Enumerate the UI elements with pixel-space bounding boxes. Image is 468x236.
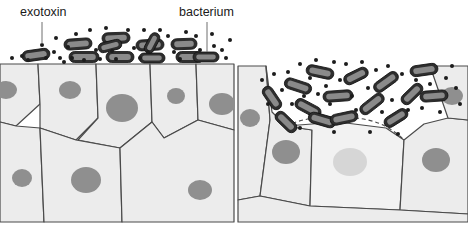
epithelial-cell [196,64,235,130]
exotoxin-particle [194,34,198,38]
nucleus [272,140,300,164]
exotoxin-particle [400,72,404,76]
bacterium-rod [193,52,219,62]
exotoxin-particle [396,132,400,136]
exotoxin-particle [172,50,176,54]
exotoxin-particle [450,64,454,68]
exotoxin-particle [316,92,320,96]
bacterium-inner-highlight [109,54,131,60]
exotoxin-particle [10,56,14,60]
right-panel [238,58,468,222]
bacterium-rod [323,89,354,102]
nucleus [422,148,450,172]
left-panel-cell-layer [0,64,235,222]
bacterium-rod [371,69,400,94]
bacterium-rod [382,106,410,129]
left-panel [0,26,235,222]
exotoxin-particle [198,48,202,52]
exotoxin-particle [104,26,108,30]
exotoxin-particle [444,76,448,80]
exotoxin-particle [266,102,270,106]
exotoxin-particle [354,108,358,112]
exotoxin-particle [428,82,432,86]
exotoxin-particle [338,78,342,82]
nucleus-damaged [333,148,367,176]
exotoxin-particle [62,60,66,64]
left-panel-bacteria [21,31,219,63]
figure-canvas: exotoxin bacterium [0,0,468,236]
exotoxin-particle [406,108,410,112]
nucleus [188,180,212,200]
exotoxin-particle [350,94,354,98]
exotoxin-particle [178,57,182,61]
exotoxin-particle [44,56,48,60]
exotoxin-particle [390,98,394,102]
bacterium-inner-highlight [196,55,216,60]
exotoxin-particle [82,58,86,62]
exotoxin-particle [20,54,24,58]
exotoxin-particle [366,86,370,90]
exotoxin-particle [260,78,264,82]
exotoxin-particle [110,49,114,53]
exotoxin-particle [298,62,302,66]
exotoxin-particle [98,57,102,61]
exotoxin-particle [302,94,306,98]
exotoxin-particle [386,64,390,68]
exotoxin-particle [26,58,30,62]
exotoxin-particle [142,28,146,32]
exotoxin-particle [94,48,98,52]
exotoxin-particle [166,34,170,38]
nucleus [106,94,138,122]
exotoxin-particle [228,38,232,42]
bacterium-rod [342,65,370,86]
bacterium-rod [21,48,50,63]
exotoxin-particle [52,50,56,54]
nucleus [12,169,32,187]
exotoxin-particle [58,56,62,60]
exotoxin-particle [374,68,378,72]
epithelial-cell [400,118,468,214]
nucleus [209,93,235,115]
exotoxin-particle [458,102,462,106]
exotoxin-particle [272,72,276,76]
exotoxin-particle [368,130,372,134]
bacterium-rod [420,90,449,103]
epithelial-cell [0,122,44,222]
bacterium-rod [106,52,134,63]
epithelium-exotoxin-diagram: exotoxin bacterium [0,0,468,236]
exotoxin-particle [380,110,384,114]
exotoxin-particle [344,62,348,66]
exotoxin-particle [414,78,418,82]
exotoxin-particle [74,32,78,36]
nucleus [167,88,185,104]
exotoxin-particle [70,56,74,60]
exotoxin-particle [290,102,294,106]
exotoxin-particle [438,110,442,114]
nucleus [240,109,260,127]
bacterium-label: bacterium [179,5,234,19]
bacterium-rod [139,53,165,63]
bacterium-rod [171,38,197,50]
nucleus [59,81,81,99]
exotoxin-particle [454,86,458,90]
exotoxin-particle [184,30,188,34]
exotoxin-particle [332,60,336,64]
exotoxin-particle [66,45,70,49]
exotoxin-particle [138,56,142,60]
exotoxin-particle [332,130,336,134]
exotoxin-particle [88,28,92,32]
exotoxin-particle [54,36,58,40]
exotoxin-particle [158,28,162,32]
exotoxin-particle [328,102,332,106]
exotoxin-particle [360,60,364,64]
exotoxin-particle [308,76,312,80]
exotoxin-particle [224,56,228,60]
exotoxin-particle [298,126,302,130]
exotoxin-particle [114,57,118,61]
exotoxin-particle [146,50,150,54]
epithelial-cell [0,64,40,126]
exotoxin-label: exotoxin [20,5,67,19]
exotoxin-particle [126,28,130,32]
epithelial-cell [120,120,234,222]
exotoxin-particle [286,70,290,74]
